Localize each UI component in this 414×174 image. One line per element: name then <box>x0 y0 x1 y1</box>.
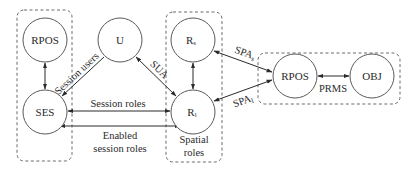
node-rpos-left[interactable]: RPOS <box>23 18 67 62</box>
node-u[interactable]: U <box>98 18 142 62</box>
node-rpos-right[interactable]: RPOS <box>273 54 317 98</box>
session-roles-label: Session roles <box>90 98 145 109</box>
node-u-label: U <box>116 34 124 46</box>
prms-label: PRMS <box>319 83 347 94</box>
enabled-label-line1: Enabled <box>103 130 138 141</box>
node-rs[interactable]: Rs <box>171 18 215 62</box>
rbac-spatial-diagram: RPOS SES U Rs Rl RPOS OBJ Session users … <box>0 0 414 174</box>
node-rpos-right-label: RPOS <box>281 70 309 82</box>
session-users-label: Session users <box>52 50 101 96</box>
node-ses-label: SES <box>36 106 55 118</box>
spa-s-label: SPAs <box>233 44 257 64</box>
node-ses[interactable]: SES <box>23 90 67 134</box>
spatial-roles-label-line1: Spatial <box>179 134 208 145</box>
node-obj-label: OBJ <box>362 70 382 82</box>
spa-l-label: SPAl <box>231 92 255 111</box>
sua-label: SUA <box>148 58 171 81</box>
node-rpos-left-label: RPOS <box>31 34 59 46</box>
node-obj[interactable]: OBJ <box>350 54 394 98</box>
enabled-label-line2: session roles <box>93 143 146 154</box>
spatial-roles-label-line2: roles <box>184 147 204 158</box>
node-rl[interactable]: Rl <box>171 90 215 134</box>
